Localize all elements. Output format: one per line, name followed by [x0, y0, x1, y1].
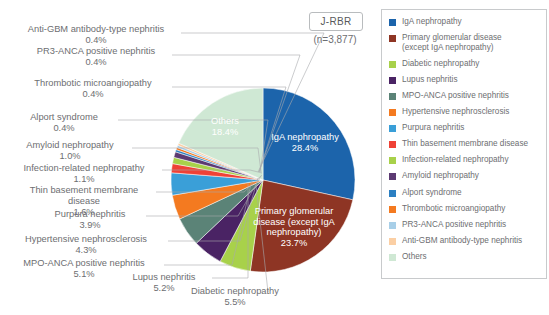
legend-swatch-icon: [389, 109, 396, 116]
callout-purpura-nephritis: Purpura nephritis 3.9%: [38, 209, 142, 231]
callout-infection-related-nephropathy: Infection-related nephropathy 1.1%: [8, 163, 160, 185]
legend-swatch-icon: [389, 173, 396, 180]
legend-item-purpura-nephritis[interactable]: Purpura nephritis: [389, 123, 540, 133]
legend-label: Infection-related nephropathy: [402, 155, 509, 165]
legend-label: MPO-ANCA positive nephritis: [402, 91, 509, 101]
legend-label: Primary glomerular disease(except IgA ne…: [402, 33, 502, 52]
legend-swatch-icon: [389, 125, 396, 132]
legend-item-pr3-anca-positive-nephritis[interactable]: PR3-ANCA positive nephritis: [389, 220, 540, 230]
legend-label: Thin basement membrane disease: [402, 139, 528, 149]
legend-label: Anti-GBM antibody-type nephritis: [402, 236, 522, 246]
legend-item-lupus-nephritis[interactable]: Lupus nephritis: [389, 75, 540, 85]
legend-swatch-icon: [389, 206, 396, 213]
legend-item-diabetic-nephropathy[interactable]: Diabetic nephropathy: [389, 59, 540, 69]
callout-alport-syndrome: Alport syndrome 0.4%: [14, 112, 114, 134]
legend-swatch-icon: [389, 61, 396, 68]
legend-label: Amyloid nephropathy: [402, 171, 479, 181]
legend-swatch-icon: [389, 254, 396, 261]
callout-amyloid-nephropathy: Amyloid nephropathy 1.0%: [12, 140, 128, 162]
legend-item-alport-syndrome[interactable]: Alport syndrome: [389, 188, 540, 198]
legend-label: Diabetic nephropathy: [402, 59, 479, 69]
legend-label: IgA nephropathy: [402, 17, 462, 27]
legend-swatch-icon: [389, 238, 396, 245]
legend-label: Thrombotic microangiopathy: [402, 204, 505, 214]
legend-label: Others: [402, 252, 427, 262]
legend-swatch-icon: [389, 157, 396, 164]
legend-label: PR3-ANCA positive nephritis: [402, 220, 506, 230]
legend-swatch-icon: [389, 19, 396, 26]
legend-label: Hypertensive nephrosclerosis: [402, 107, 509, 117]
legend-item-infection-related-nephropathy[interactable]: Infection-related nephropathy: [389, 155, 540, 165]
legend-item-anti-gbm-antibody-type-nephritis[interactable]: Anti-GBM antibody-type nephritis: [389, 236, 540, 246]
callout-diabetic-nephropathy: Diabetic nephropathy 5.5%: [176, 286, 294, 308]
legend-item-hypertensive-nephrosclerosis[interactable]: Hypertensive nephrosclerosis: [389, 107, 540, 117]
legend-label: Purpura nephritis: [402, 123, 464, 133]
legend-item-others[interactable]: Others: [389, 252, 540, 262]
chart-canvas: J-RBR (n=3,877) IgA nephropathy28.4%Prim…: [0, 0, 549, 315]
legend-swatch-icon: [389, 190, 396, 197]
legend-item-thrombotic-microangiopathy[interactable]: Thrombotic microangiopathy: [389, 204, 540, 214]
callout-pr3-anca-positive-nephritis: PR3-ANCA positive nephritis 0.4%: [24, 46, 168, 68]
legend-item-iga-nephropathy[interactable]: IgA nephropathy: [389, 17, 540, 27]
legend-item-thin-basement-membrane-disease[interactable]: Thin basement membrane disease: [389, 139, 540, 149]
legend-item-primary-glomerular-disease[interactable]: Primary glomerular disease(except IgA ne…: [389, 33, 540, 52]
callout-anti-gbm-antibody-type-nephritis: Anti-GBM antibody-type nephritis 0.4%: [12, 24, 180, 46]
legend-swatch-icon: [389, 77, 396, 84]
slice-label-others: Others18.4%: [211, 116, 239, 137]
legend-swatch-icon: [389, 222, 396, 229]
legend-swatch-icon: [389, 93, 396, 100]
legend: IgA nephropathyPrimary glomerular diseas…: [381, 9, 547, 279]
legend-swatch-icon: [389, 35, 396, 42]
legend-label: Lupus nephritis: [402, 75, 458, 85]
legend-swatch-icon: [389, 141, 396, 148]
callout-hypertensive-nephrosclerosis: Hypertensive nephrosclerosis 4.3%: [8, 234, 164, 256]
callout-thrombotic-microangiopathy: Thrombotic microangiopathy 0.4%: [18, 78, 168, 100]
legend-item-mpo-anca-positive-nephritis[interactable]: MPO-ANCA positive nephritis: [389, 91, 540, 101]
legend-item-amyloid-nephropathy[interactable]: Amyloid nephropathy: [389, 171, 540, 181]
legend-label: Alport syndrome: [402, 188, 462, 198]
